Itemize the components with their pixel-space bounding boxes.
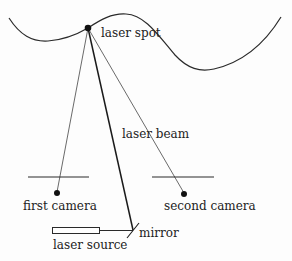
diagram-svg: laser spot laser beam first camera secon… [0,0,292,261]
second-camera-label: second camera [164,199,256,213]
ray-to-first-camera [57,28,88,192]
laser-source-box [53,228,100,234]
laser-spot-dot [85,25,92,32]
surface-curve [9,14,281,70]
second-camera-dot [181,191,187,197]
mirror-label: mirror [139,226,179,240]
laser-source-label: laser source [53,238,127,252]
first-camera-dot [54,190,60,196]
diagram-canvas: laser spot laser beam first camera secon… [0,0,292,261]
laser-spot-label: laser spot [101,26,161,40]
ray-to-second-camera [88,28,184,193]
first-camera-label: first camera [23,199,97,213]
laser-beam-label: laser beam [122,127,190,141]
